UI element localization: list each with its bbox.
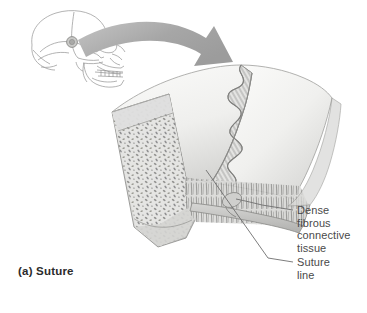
skull-suture-highlight-marker — [67, 37, 78, 48]
label-suture-line: Suture line — [297, 256, 363, 281]
label-dense-fibrous-connective-tissue: Dense fibrous connective tissue — [297, 204, 363, 254]
figure-caption: (a) Suture — [18, 265, 74, 277]
